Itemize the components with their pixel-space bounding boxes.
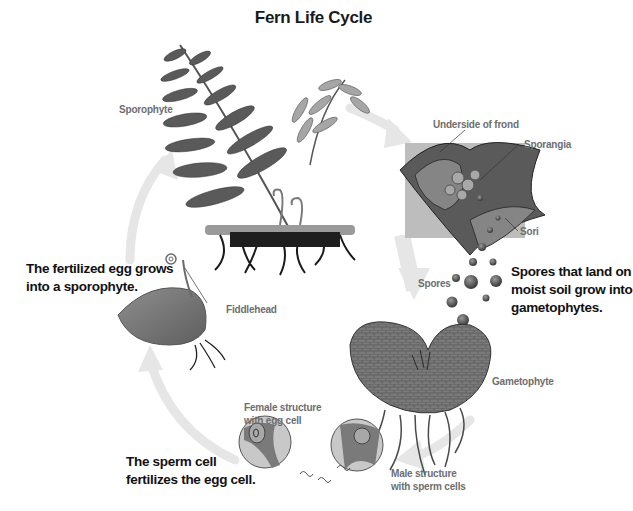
male-structure-circle	[331, 419, 383, 471]
sperm-cells	[300, 466, 350, 483]
label-sporophyte: Sporophyte	[119, 103, 173, 116]
spore-fall-arrow	[402, 235, 414, 290]
label-female-structure: Female structure with egg cell	[244, 401, 321, 427]
light-frond	[290, 77, 372, 165]
spores	[447, 243, 503, 326]
step-fertilized-egg: The fertilized egg grows into a sporophy…	[26, 260, 173, 296]
label-spores: Spores	[418, 277, 451, 290]
label-gametophyte: Gametophyte	[492, 375, 554, 388]
step-sperm-fertilizes: The sperm cell fertilizes the egg cell.	[126, 453, 255, 489]
label-male-structure: Male structure with sperm cells	[391, 467, 466, 493]
frond-underside-closeup	[400, 143, 545, 256]
arrow-young-to-sporophyte	[130, 160, 165, 260]
diagram-title: Fern Life Cycle	[0, 8, 627, 28]
sporophyte-fern	[160, 45, 290, 230]
label-sori: Sori	[520, 225, 539, 238]
rhizome-roots	[205, 225, 355, 275]
label-fiddlehead: Fiddlehead	[226, 303, 277, 316]
label-sporangia: Sporangia	[524, 138, 571, 151]
arrow-female-to-sporophyte	[150, 360, 235, 460]
label-underside-of-frond: Underside of frond	[433, 118, 519, 131]
step-spores-grow: Spores that land on moist soil grow into…	[511, 263, 633, 317]
